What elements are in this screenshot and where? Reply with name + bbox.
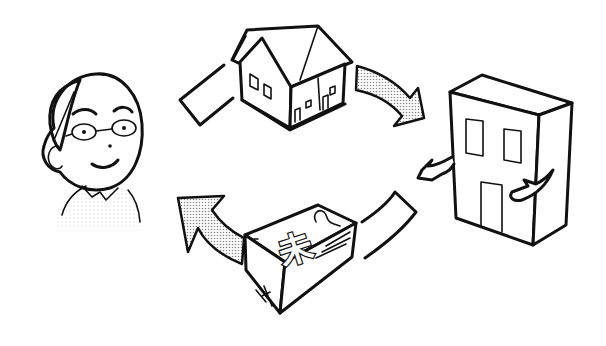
building-icon: [418, 75, 572, 245]
arrow-to-person: [178, 196, 244, 264]
money-bundle-icon: 未: [245, 205, 356, 313]
arrow-to-house: [180, 65, 233, 125]
person-figure: [43, 74, 142, 230]
cycle-illustration: 未: [0, 0, 606, 346]
arrow-to-building: [356, 66, 424, 126]
arrow-to-money: [362, 192, 416, 258]
house-icon: [232, 26, 352, 130]
